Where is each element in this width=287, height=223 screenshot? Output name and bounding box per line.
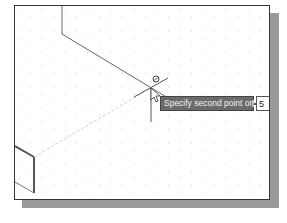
down-arrow-options-icon[interactable] xyxy=(252,100,254,107)
drawing-viewport[interactable]: Specify second point or xyxy=(14,5,270,200)
autocad-drawing-area: Specify second point or xyxy=(0,0,287,223)
tooltip-prompt-text: Specify second point or xyxy=(164,97,252,110)
command-prompt-tooltip: Specify second point or xyxy=(160,96,254,111)
dynamic-input-field[interactable] xyxy=(256,96,270,111)
